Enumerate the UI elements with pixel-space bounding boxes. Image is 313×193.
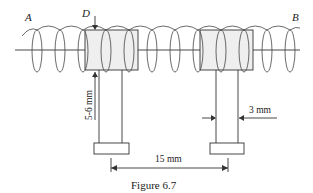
- support-left-head: [85, 30, 138, 70]
- support-right-stem: [216, 70, 238, 143]
- label-spacing: 15 mm: [155, 154, 182, 164]
- label-width: 3 mm: [249, 105, 272, 115]
- support-left-stem: [99, 70, 122, 143]
- support-right-head: [200, 30, 253, 70]
- width-dimension-arrows: [202, 115, 277, 121]
- label-a: A: [24, 11, 32, 23]
- support-left-base: [94, 143, 129, 154]
- helix-support-diagram: A B D 5-6 mm 3 mm 15 mm Figure 6.7: [0, 0, 313, 193]
- label-b: B: [292, 11, 299, 23]
- support-right-base: [210, 143, 244, 154]
- helix-coil: [22, 26, 300, 72]
- label-height: 5-6 mm: [84, 90, 94, 120]
- figure-caption: Figure 6.7: [131, 179, 177, 191]
- label-d: D: [81, 7, 90, 19]
